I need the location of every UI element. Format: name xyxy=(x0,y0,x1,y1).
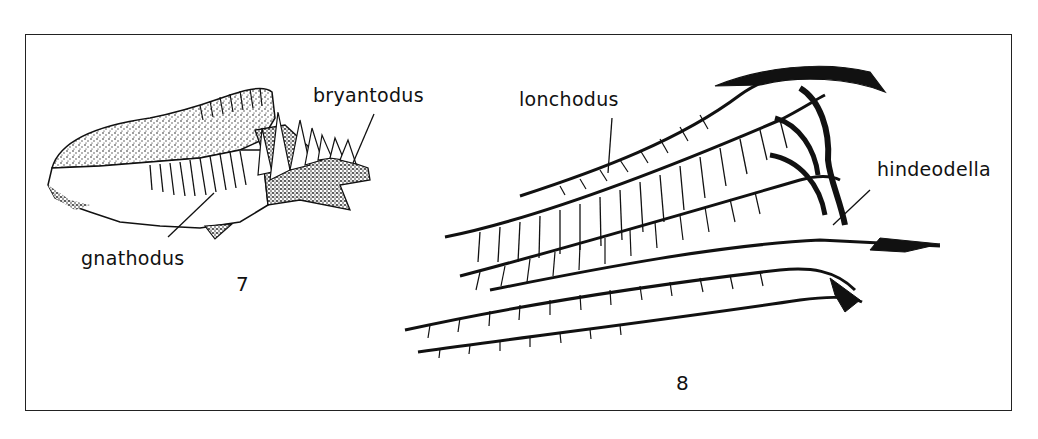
label-lonchodus: lonchodus xyxy=(519,88,619,110)
figure-number-8: 8 xyxy=(676,371,689,395)
specimen-gnathodus xyxy=(48,88,374,239)
label-bryantodus: bryantodus xyxy=(313,84,424,106)
figure-number-7: 7 xyxy=(236,272,249,296)
conodont-illustrations xyxy=(0,0,1038,439)
label-hindeodella: hindeodella xyxy=(877,158,991,180)
specimen-lonchodus-hindeodella xyxy=(405,66,940,358)
label-gnathodus: gnathodus xyxy=(81,247,185,269)
